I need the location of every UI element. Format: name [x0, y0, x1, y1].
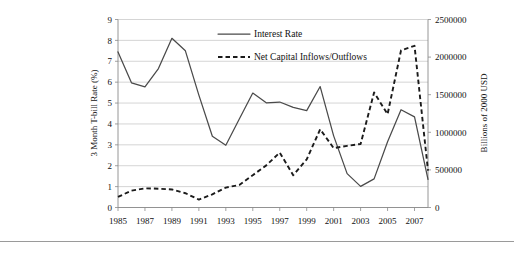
y2-tick-label: 0	[435, 203, 440, 213]
x-tick-label: 1985	[109, 216, 128, 226]
x-tick-label: 2001	[325, 216, 343, 226]
x-tick-label: 1989	[163, 216, 182, 226]
y2-tick-label: 1500000	[435, 90, 467, 100]
y-tick-label: 4	[108, 119, 113, 129]
x-tick-label: 2007	[406, 216, 425, 226]
series-layer	[118, 38, 428, 199]
y-tick-label: 6	[108, 77, 113, 87]
footer-divider	[0, 241, 514, 242]
legend-label-2: Net Capital Inflows/Outflows	[254, 52, 367, 62]
x-tick-label: 1995	[244, 216, 263, 226]
x-tick-label: 2003	[352, 216, 371, 226]
y-tick-label: 0	[108, 203, 113, 213]
x-tick-label: 1987	[136, 216, 155, 226]
y-tick-label: 3	[108, 140, 113, 150]
axis-lines	[118, 20, 428, 208]
chart-legend: Interest RateNet Capital Inflows/Outflow…	[218, 29, 367, 62]
chart-figure: 0123456789 05000001000000150000020000002…	[0, 0, 514, 255]
y2-axis-title: Billions of 2000 USD	[479, 73, 489, 152]
x-tick-label: 1993	[217, 216, 236, 226]
x-axis-tick-labels: 1985198719891991199319951997199920012003…	[109, 216, 424, 226]
y-tick-label: 2	[108, 161, 113, 171]
x-tick-label: 1997	[271, 216, 290, 226]
y2-tick-label: 1000000	[435, 128, 467, 138]
y2-tick-label: 2000000	[435, 52, 467, 62]
tick-marks	[115, 20, 431, 212]
y-tick-label: 8	[108, 36, 113, 46]
y-tick-label: 9	[108, 15, 113, 25]
legend-label-1: Interest Rate	[254, 29, 302, 39]
y-axis-title: 3 Month T-bill Rate (%)	[89, 70, 99, 157]
line-chart: 0123456789 05000001000000150000020000002…	[0, 0, 514, 255]
gridlines	[118, 20, 428, 208]
y2-tick-label: 500000	[435, 165, 463, 175]
y2-axis-tick-labels: 05000001000000150000020000002500000	[435, 15, 467, 213]
y-tick-label: 7	[108, 56, 113, 66]
y2-tick-label: 2500000	[435, 15, 467, 25]
x-tick-label: 1999	[298, 216, 317, 226]
y-axis-tick-labels: 0123456789	[108, 15, 113, 213]
y-tick-label: 1	[108, 182, 113, 192]
x-tick-label: 2005	[379, 216, 398, 226]
x-tick-label: 1991	[190, 216, 208, 226]
y-tick-label: 5	[108, 98, 113, 108]
series-line-net-capital-inflows-outflows	[118, 46, 428, 200]
